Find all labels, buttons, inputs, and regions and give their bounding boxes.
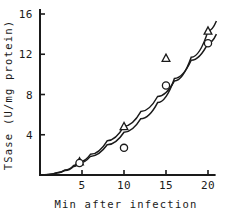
y-tick-label: 8 — [26, 89, 33, 102]
triangle-series-markers — [76, 27, 212, 165]
data-curves-group — [40, 21, 216, 175]
x-tick-label: 15 — [159, 179, 173, 192]
data-point-marker — [162, 54, 170, 61]
x-tick-label: 10 — [117, 179, 131, 192]
y-tick-label: 12 — [19, 48, 33, 61]
x-tick-labels: 5101520 — [78, 179, 215, 192]
circle-series-curve — [40, 34, 216, 175]
chart-figure: 5101520 481216 Min after infection TSase… — [0, 0, 227, 220]
plot-canvas: 5101520 481216 Min after infection TSase… — [0, 0, 227, 220]
data-point-marker — [76, 159, 83, 166]
y-tick-labels: 481216 — [19, 8, 33, 142]
triangle-series-curve — [40, 21, 216, 175]
data-point-marker — [120, 144, 127, 151]
x-tick-label: 5 — [78, 179, 85, 192]
x-axis-title: Min after infection — [55, 198, 198, 210]
y-axis-title: TSase (U/mg protein) — [2, 20, 14, 170]
data-point-marker — [162, 82, 169, 89]
y-tick-label: 4 — [26, 129, 33, 142]
data-point-marker — [204, 40, 211, 47]
y-tick-label: 16 — [19, 8, 33, 21]
x-tick-label: 20 — [201, 179, 215, 192]
